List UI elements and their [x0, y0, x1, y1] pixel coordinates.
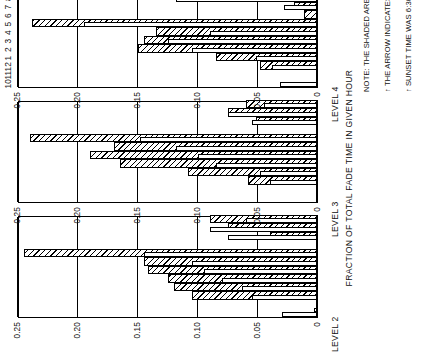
bar-group	[19, 194, 318, 203]
note-arrow-icon: ↑	[404, 88, 414, 92]
bar-group	[19, 185, 318, 194]
plot-area	[18, 0, 318, 88]
bar-all-days	[176, 0, 318, 2]
bar-all-days	[264, 103, 318, 108]
bar-group	[19, 275, 318, 284]
y-axis-tick-label: 0.15	[132, 92, 142, 122]
bar-group	[19, 70, 318, 79]
bar-group	[19, 177, 318, 186]
y-axis-tick-label: 0	[312, 207, 322, 237]
bar-group	[19, 11, 318, 20]
bar-all-days	[256, 56, 318, 61]
bar-all-days	[282, 312, 318, 317]
note-text: NOTE: THE SHADED AREA IS FOR DAYS 10+43+…	[362, 0, 372, 92]
y-axis-tick-label: 0.10	[192, 92, 202, 122]
y-axis-tick-label: 0.20	[72, 207, 82, 237]
y-axis-tick-label: 0.25	[12, 322, 22, 352]
bar-all-days	[284, 5, 318, 10]
y-axis-tick-label: 0	[312, 322, 322, 352]
bar-all-days	[140, 137, 318, 142]
bar-group	[19, 45, 318, 54]
note-line: ↑SUNSET TIME WAS 6:30 P. M.	[404, 0, 414, 92]
bar-group	[19, 300, 318, 309]
chart-panel-level-2	[18, 216, 318, 318]
bar-group	[19, 2, 318, 11]
bar-all-days	[260, 171, 318, 176]
bar-group	[19, 160, 318, 169]
bar-all-days	[210, 227, 318, 232]
bar-group	[19, 143, 318, 152]
chart-panel-level-4	[18, 0, 318, 88]
bar-group	[19, 79, 318, 88]
bar-all-days	[198, 154, 318, 159]
bar-group	[19, 19, 318, 28]
bar-group	[19, 168, 318, 177]
chart-panel-level-3	[18, 101, 318, 203]
bar-group	[19, 28, 318, 37]
bar-group	[19, 134, 318, 143]
y-axis-tick-label: 0.10	[192, 322, 202, 352]
y-axis-tick-label: 0.05	[252, 92, 262, 122]
bar-group	[19, 232, 318, 241]
fade-time-figure: 00.050.100.150.200.25LEVEL 200.050.100.1…	[0, 0, 432, 360]
y-axis-tick-label: 0.05	[252, 207, 262, 237]
baseline-axis	[316, 0, 318, 87]
bar-all-days	[252, 295, 318, 300]
y-axis-tick-label: 0.20	[72, 92, 82, 122]
bar-all-days	[280, 82, 318, 87]
bar-all-days	[222, 278, 318, 283]
bar-group	[19, 36, 318, 45]
figure-rotation-wrapper: 00.050.100.150.200.25LEVEL 200.050.100.1…	[0, 0, 432, 360]
bar-group	[19, 100, 318, 109]
bar-all-days	[216, 163, 318, 168]
y-axis-tick-label: 0.25	[12, 207, 22, 237]
bar-all-days	[228, 235, 318, 240]
panel-label: LEVEL 3	[330, 135, 340, 237]
x-axis-tick-label: 9	[3, 0, 13, 2]
bar-group	[19, 249, 318, 258]
bar-group	[19, 126, 318, 135]
y-axis-tick-label: 0.25	[12, 92, 22, 122]
bar-group	[19, 292, 318, 301]
gridline	[17, 0, 18, 87]
y-axis-tick-label: 0.05	[252, 322, 262, 352]
axis-title: FRACTION OF TOTAL FADE TIME IN GIVEN HOU…	[344, 0, 354, 358]
note-text: THE ARROW INDICATES THE AVERAGE SUNRISE …	[383, 0, 393, 86]
note-line: NOTE: THE SHADED AREA IS FOR DAYS 10+43+…	[362, 0, 372, 92]
panel-label: LEVEL 2	[330, 250, 340, 352]
bar-all-days	[192, 261, 318, 266]
bar-group	[19, 151, 318, 160]
bar-group	[19, 109, 318, 118]
bar-all-days	[204, 269, 318, 274]
bar-all-days	[242, 286, 318, 291]
bar-group	[19, 266, 318, 275]
bar-group	[19, 117, 318, 126]
bar-group	[19, 283, 318, 292]
plot-area	[18, 216, 318, 318]
bar-all-days	[168, 39, 318, 44]
note-line: ↑THE ARROW INDICATES THE AVERAGE SUNRISE…	[383, 0, 393, 92]
plot-area	[18, 101, 318, 203]
y-axis-tick-label: 0.15	[132, 322, 142, 352]
note-block: NOTE: THE SHADED AREA IS FOR DAYS 10+43+…	[362, 0, 393, 92]
bar-all-days	[210, 31, 318, 36]
bar-group	[19, 62, 318, 71]
bar-all-days	[270, 180, 318, 185]
y-axis-tick-label: 0.15	[132, 207, 142, 237]
note-arrow-icon: ↑	[383, 88, 393, 92]
bar-all-days	[228, 112, 318, 117]
bar-all-days	[192, 48, 318, 53]
bar-all-days	[176, 146, 318, 151]
x-axis-period-am: AM	[0, 51, 1, 75]
panel-label: LEVEL 4	[330, 20, 340, 122]
bar-group	[19, 241, 318, 250]
bar-group	[19, 0, 318, 2]
bar-group	[19, 258, 318, 267]
y-axis-tick-label: 0.10	[192, 207, 202, 237]
y-axis-tick-label: 0.20	[72, 322, 82, 352]
bar-group	[19, 53, 318, 62]
bar-group	[19, 309, 318, 318]
y-axis-tick-label: 0	[312, 92, 322, 122]
bar-all-days	[144, 252, 318, 257]
bar-group	[19, 224, 318, 233]
